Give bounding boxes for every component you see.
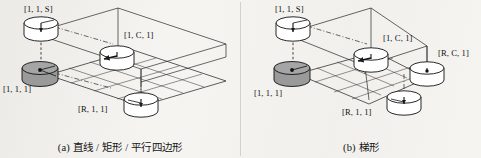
figure-panel-a: [1, 1, S] [1, C, 1] [1, 1, 1] [R, 1, 1] … <box>0 0 240 158</box>
caption-b: (b) 梯形 <box>241 139 481 154</box>
label-node-R-1-1-a: [R, 1, 1] <box>78 104 108 114</box>
label-node-1-C-1-b: [1, C, 1] <box>383 33 413 43</box>
label-node-R-C-1-b: [R, C, 1] <box>438 48 469 58</box>
node-1-1-1-b <box>274 62 310 87</box>
label-node-1-1-1-b: [1, 1, 1] <box>254 88 282 98</box>
node-1-1-S-b <box>276 17 310 41</box>
figure-panel-b: [1, 1, S] [1, C, 1] [R, C, 1] [1, 1, 1] … <box>241 0 481 158</box>
node-1-1-1-a <box>22 62 58 87</box>
node-R-1-1-b <box>387 91 421 115</box>
label-node-1-1-1-a: [1, 1, 1] <box>3 84 31 94</box>
grid-mesh-a <box>69 56 204 99</box>
diagram-a <box>0 0 240 132</box>
node-1-C-1-b <box>354 48 388 72</box>
node-1-1-S-a <box>24 17 58 41</box>
label-node-R-1-1-b: [R, 1, 1] <box>342 107 372 117</box>
node-R-1-1-a <box>124 93 158 117</box>
label-node-1-C-1-a: [1, C, 1] <box>124 30 154 40</box>
node-1-C-1-a <box>100 46 134 70</box>
node-R-C-1-b <box>410 62 444 86</box>
figure-page: [1, 1, S] [1, C, 1] [1, 1, 1] [R, 1, 1] … <box>0 0 481 158</box>
label-node-1-1-S-b: [1, 1, S] <box>275 4 304 14</box>
caption-a: (a) 直线 / 矩形 / 平行四边形 <box>0 139 240 154</box>
label-node-1-1-S-a: [1, 1, S] <box>24 4 53 14</box>
